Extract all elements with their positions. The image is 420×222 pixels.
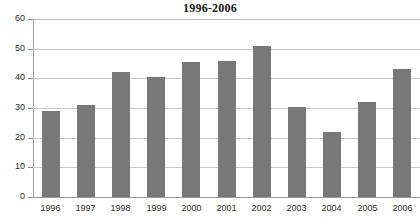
bar-chart: 1996-2006 010203040506019961997199819992… bbox=[0, 0, 420, 222]
y-axis-tick bbox=[28, 138, 33, 139]
bar-1998 bbox=[112, 72, 130, 197]
x-axis-label-2003: 2003 bbox=[279, 203, 314, 213]
x-axis-label-2004: 2004 bbox=[314, 203, 349, 213]
y-axis-tick bbox=[28, 197, 33, 198]
y-axis-tick bbox=[28, 49, 33, 50]
x-axis-label-2001: 2001 bbox=[209, 203, 244, 213]
plot-area bbox=[33, 19, 420, 197]
y-axis-tick bbox=[28, 108, 33, 109]
bar-1996 bbox=[42, 111, 60, 197]
x-axis-label-1996: 1996 bbox=[33, 203, 68, 213]
y-axis-label: 20 bbox=[0, 133, 25, 142]
bar-2000 bbox=[182, 62, 200, 197]
gridline bbox=[33, 197, 420, 198]
y-axis-label: 0 bbox=[0, 192, 25, 201]
x-axis-label-2005: 2005 bbox=[350, 203, 385, 213]
x-axis-label-2000: 2000 bbox=[174, 203, 209, 213]
y-axis-label: 10 bbox=[0, 162, 25, 171]
y-axis-tick bbox=[28, 78, 33, 79]
chart-title: 1996-2006 bbox=[0, 1, 420, 16]
y-axis-label: 60 bbox=[0, 14, 25, 23]
bar-2001 bbox=[218, 61, 236, 197]
x-axis-label-1997: 1997 bbox=[68, 203, 103, 213]
y-axis-label: 30 bbox=[0, 103, 25, 112]
bar-2004 bbox=[323, 132, 341, 197]
y-axis-label: 50 bbox=[0, 44, 25, 53]
x-axis-label-1998: 1998 bbox=[103, 203, 138, 213]
y-axis-tick bbox=[28, 167, 33, 168]
gridline bbox=[33, 19, 420, 20]
bar-2005 bbox=[358, 102, 376, 197]
x-axis-label-2002: 2002 bbox=[244, 203, 279, 213]
bar-2003 bbox=[288, 107, 306, 197]
bar-1999 bbox=[147, 77, 165, 197]
bar-2006 bbox=[393, 69, 411, 197]
bar-1997 bbox=[77, 105, 95, 197]
x-axis-label-1999: 1999 bbox=[139, 203, 174, 213]
bar-2002 bbox=[253, 46, 271, 197]
x-axis-label-2006: 2006 bbox=[385, 203, 420, 213]
gridline bbox=[33, 49, 420, 50]
y-axis-tick bbox=[28, 19, 33, 20]
y-axis-label: 40 bbox=[0, 73, 25, 82]
